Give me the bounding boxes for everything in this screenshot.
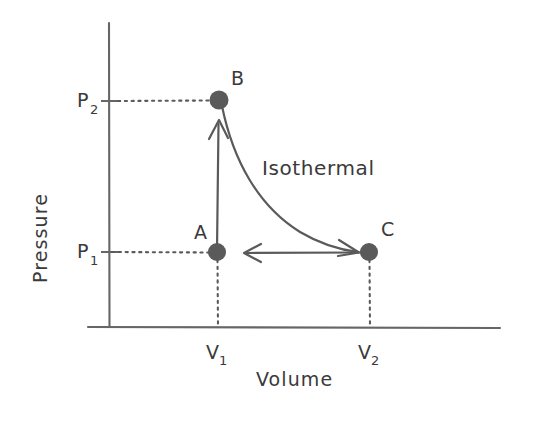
diagram-canvas: Pressure Volume P 2 P 1 V 1 V 2 B A C Is… [0,0,559,426]
isothermal-annotation: Isothermal [262,156,375,180]
process-arrow-c-to-a-shaft [247,253,362,254]
state-point-b [210,91,229,110]
y-tick-label-p1-base: P [77,240,88,262]
x-tick-label-v2-base: V [358,341,371,363]
process-arrow-a-to-b-shaft [217,124,219,250]
state-point-c [360,243,378,261]
guide-dotted-c-to-v2 [370,260,371,327]
x-tick-label-v1: V 1 [206,341,227,368]
y-tick-label-p2-base: P [77,89,88,111]
x-tick-label-v2-sub: 2 [371,353,379,368]
y-axis-line [109,23,110,327]
x-tick-label-v2: V 2 [358,341,379,368]
x-tick-label-v1-sub: 1 [219,353,227,368]
x-tick-label-v1-base: V [206,341,219,363]
guide-dotted-p1-to-a [112,252,211,253]
y-axis-label: Pressure [29,193,51,283]
guide-dotted-p2-to-b [118,101,212,102]
pv-diagram: Pressure Volume P 2 P 1 V 1 V 2 B A C Is… [0,0,559,426]
state-label-c: C [381,218,394,240]
state-label-a: A [194,221,207,243]
guide-dotted-a-to-v1 [218,260,219,327]
y-tick-label-p2-sub: 2 [90,102,98,117]
y-tick-label-p1-sub: 1 [90,253,98,268]
state-label-b: B [231,67,244,89]
y-tick-label-p1: P 1 [77,240,98,268]
y-tick-label-p2: P 2 [77,89,98,117]
x-axis-line [88,327,500,328]
x-axis-label: Volume [256,368,333,390]
state-point-a [208,243,226,261]
